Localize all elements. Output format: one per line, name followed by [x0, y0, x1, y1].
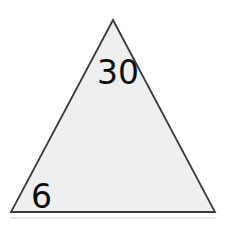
triangle-diagram: 30 6	[0, 0, 229, 226]
angle-label-6: 6	[31, 177, 52, 216]
angle-label-30: 30	[97, 53, 139, 92]
figure-canvas: 30 6	[0, 0, 229, 226]
